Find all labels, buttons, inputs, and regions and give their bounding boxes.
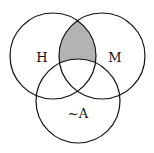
label-m: M <box>108 50 121 65</box>
venn-diagram: H M ~A <box>0 0 154 153</box>
label-not-a: ~A <box>68 106 89 121</box>
label-h: H <box>36 50 47 65</box>
